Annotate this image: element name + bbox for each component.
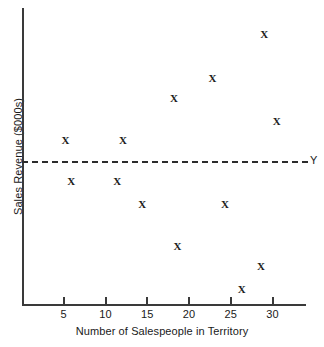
data-point-marker: X [110,176,124,187]
data-point-marker: X [58,135,72,146]
data-point-marker: X [64,176,78,187]
data-point-marker: X [270,116,284,127]
data-point-marker: X [135,199,149,210]
data-point-marker: X [205,73,219,84]
data-point-marker: X [116,135,130,146]
data-point-marker: X [170,241,184,252]
data-point-marker: X [257,29,271,40]
x-axis-title: Number of Salespeople in Territory [0,325,324,338]
data-point-marker: X [235,284,249,295]
data-point-marker: X [218,199,232,210]
scatter-plot-figure: Sales Revenue ($000s) 51015202530 Y XXXX… [0,0,324,347]
data-point-marker: X [167,93,181,104]
data-points-layer: XXXXXXXXXXXXX [0,0,324,347]
data-point-marker: X [254,261,268,272]
